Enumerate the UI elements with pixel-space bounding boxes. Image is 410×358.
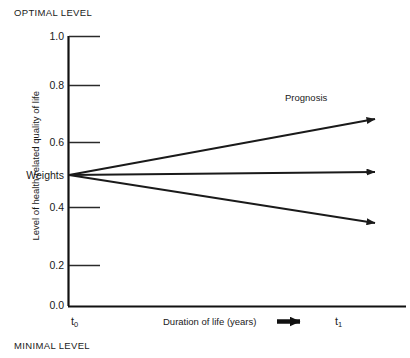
prognosis-line-improving [69, 119, 375, 175]
quality-of-life-chart: OPTIMAL LEVEL MINIMAL LEVEL Level of hea… [0, 0, 410, 358]
chart-canvas [0, 0, 410, 358]
prognosis-line-declining [69, 175, 375, 223]
prognosis-line-stable [69, 172, 375, 175]
